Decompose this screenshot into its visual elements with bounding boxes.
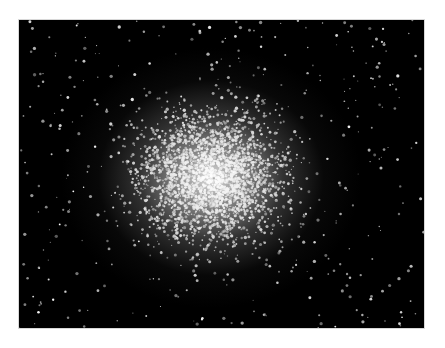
star-field — [19, 20, 425, 329]
star-cluster-photo: Dense globular star cluster on a black s… — [18, 19, 425, 329]
